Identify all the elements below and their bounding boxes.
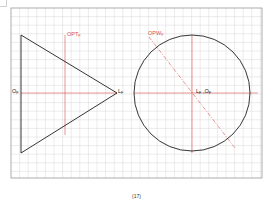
lf-label: LF [118,89,123,96]
opt-f-label: OPTF [67,32,81,39]
lf-sub: F [121,91,123,95]
of2-sub: F [209,91,211,95]
opw-text: OPW [148,30,161,36]
of-label: OF [12,89,19,96]
opw-f-label: OPWF [148,31,163,38]
corner-mark [0,0,7,7]
figure-caption: (17) [0,193,273,199]
opt-sub: F [78,34,80,38]
technical-drawing [0,0,273,207]
opt-text: OPT [67,31,78,37]
of-sub: F [16,91,18,95]
opw-sub: F [161,33,163,37]
lf-of-label: LF ,OF [196,89,211,96]
